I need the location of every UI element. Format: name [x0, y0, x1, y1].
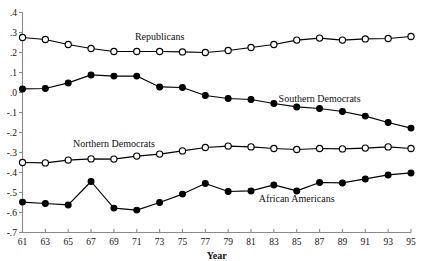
data-point-1: [20, 86, 26, 92]
data-point-0: [294, 37, 300, 43]
data-point-3: [157, 200, 163, 206]
data-point-2: [111, 156, 117, 162]
data-point-3: [408, 170, 414, 176]
data-point-0: [408, 33, 414, 39]
data-point-1: [271, 101, 277, 107]
data-point-0: [179, 49, 185, 55]
data-point-1: [180, 85, 186, 91]
x-axis-tick-label: 85: [292, 237, 302, 247]
data-point-1: [157, 84, 163, 90]
data-point-1: [134, 73, 140, 79]
data-point-3: [340, 180, 346, 186]
y-axis-tick-label: -.5: [7, 188, 18, 198]
data-point-1: [317, 106, 323, 112]
data-point-2: [134, 153, 140, 159]
data-point-2: [316, 145, 322, 151]
x-axis-tick-label: 93: [383, 237, 393, 247]
data-point-2: [65, 157, 71, 163]
data-point-3: [180, 191, 186, 197]
x-axis-tick-label: 67: [86, 237, 96, 247]
x-axis-tick-label: 65: [63, 237, 73, 247]
chart-canvas: .4.3.2.1.0-.1-.2-.3-.4-.5-.6-.7616365676…: [0, 0, 422, 261]
y-axis-tick-label: .0: [10, 88, 17, 98]
data-point-2: [248, 144, 254, 150]
data-point-2: [294, 146, 300, 152]
data-point-1: [88, 72, 94, 78]
data-point-3: [248, 188, 254, 194]
data-point-0: [385, 35, 391, 41]
data-point-2: [339, 146, 345, 152]
data-point-3: [111, 205, 117, 211]
x-axis-tick-label: 77: [201, 237, 211, 247]
data-point-2: [42, 160, 48, 166]
data-point-1: [225, 96, 231, 102]
data-point-2: [157, 151, 163, 157]
data-point-0: [362, 36, 368, 42]
data-point-2: [408, 145, 414, 151]
data-point-3: [385, 172, 391, 178]
x-axis-tick-label: 63: [41, 237, 51, 247]
y-axis-tick-label: -.7: [7, 228, 18, 238]
data-point-2: [202, 144, 208, 150]
data-point-0: [225, 47, 231, 53]
data-point-1: [362, 113, 368, 119]
data-point-2: [19, 159, 25, 165]
data-point-1: [111, 73, 117, 79]
y-axis-tick-label: .4: [10, 8, 17, 18]
x-axis-tick-label: 69: [109, 237, 119, 247]
series-line-0: [23, 37, 412, 53]
x-axis-tick-label: 71: [132, 237, 142, 247]
data-point-1: [340, 109, 346, 115]
data-point-0: [316, 35, 322, 41]
line-chart: .4.3.2.1.0-.1-.2-.3-.4-.5-.6-.7616365676…: [0, 0, 422, 261]
series-label-0: Republicans: [135, 31, 185, 42]
data-point-3: [317, 180, 323, 186]
y-axis-tick-label: .3: [10, 28, 17, 38]
data-point-3: [271, 182, 277, 188]
y-axis-tick-label: -.6: [7, 208, 18, 218]
data-point-2: [225, 143, 231, 149]
data-point-3: [42, 201, 48, 207]
x-axis-title: Year: [207, 250, 228, 261]
data-point-3: [88, 179, 94, 185]
series-line-3: [23, 173, 412, 210]
y-axis-tick-label: -.3: [7, 148, 18, 158]
x-axis-tick-label: 73: [155, 237, 165, 247]
y-axis-tick-label: -.4: [7, 168, 18, 178]
x-axis-tick-label: 89: [338, 237, 348, 247]
x-axis-tick-label: 95: [406, 237, 416, 247]
x-axis-tick-label: 79: [223, 237, 233, 247]
data-point-1: [248, 97, 254, 103]
x-axis-tick-label: 87: [315, 237, 325, 247]
series-label-3: African Americans: [259, 193, 335, 204]
y-axis-tick-label: -.1: [7, 108, 18, 118]
data-point-2: [362, 145, 368, 151]
data-point-1: [202, 93, 208, 99]
series-label-2: Northern Democrats: [73, 138, 155, 149]
x-axis-tick-label: 91: [361, 237, 371, 247]
data-point-1: [385, 120, 391, 126]
data-point-2: [385, 144, 391, 150]
data-point-0: [88, 45, 94, 51]
data-point-3: [362, 176, 368, 182]
data-point-1: [65, 80, 71, 86]
data-point-2: [271, 145, 277, 151]
x-axis-tick-label: 83: [269, 237, 279, 247]
data-point-0: [271, 41, 277, 47]
data-point-0: [339, 37, 345, 43]
data-point-0: [248, 44, 254, 50]
series-label-1: Southern Democrats: [279, 93, 361, 104]
data-point-0: [19, 34, 25, 40]
data-point-2: [179, 148, 185, 154]
data-point-0: [134, 48, 140, 54]
x-axis-tick-label: 61: [18, 237, 28, 247]
y-axis-tick-label: -.2: [7, 128, 18, 138]
data-point-1: [294, 104, 300, 110]
data-point-2: [88, 156, 94, 162]
data-point-0: [65, 41, 71, 47]
y-axis-tick-label: .1: [10, 68, 17, 78]
x-axis-tick-label: 81: [246, 237, 256, 247]
data-point-3: [202, 181, 208, 187]
y-axis-tick-label: .2: [10, 48, 17, 58]
data-point-3: [20, 199, 26, 205]
